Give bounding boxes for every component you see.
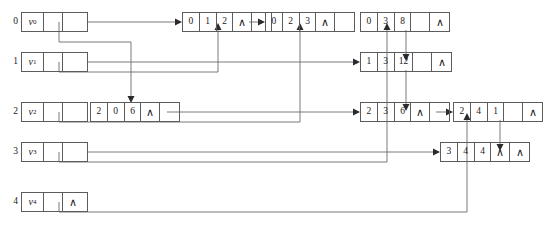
data-node-0-1-2-down-pointer: ∧ — [233, 13, 252, 31]
head-node-3: v3 — [21, 142, 88, 162]
head-node-2: v2 — [21, 102, 88, 122]
arrowhead-n1312-left — [353, 59, 360, 66]
head-node-0: v0 — [21, 12, 88, 32]
data-node-0-3-8-down-pointer — [411, 13, 430, 31]
data-node-0-2-3-row: 0 — [266, 13, 283, 31]
data-node-3-4-4-col: 4 — [458, 143, 475, 161]
head-node-3-row-pointer — [63, 143, 82, 161]
head-node-4-label: v4 — [22, 193, 44, 211]
data-node-3-4-4: 3 4 4 ∧ ∧ — [440, 142, 530, 162]
data-node-2-4-1-right-null: ∧ — [523, 103, 542, 121]
data-node-3-4-4-right-null: ∧ — [510, 143, 529, 161]
row-index-2: 2 — [8, 106, 18, 116]
data-node-1-3-12-value: 12 — [395, 53, 414, 71]
row-index-4: 4 — [8, 196, 18, 206]
row-index-3: 3 — [8, 146, 18, 156]
head-node-2-col-pointer — [44, 103, 63, 121]
head-node-3-col-pointer — [44, 143, 63, 161]
data-node-0-1-2-col: 1 — [200, 13, 217, 31]
wire-v3-col-to-n038 — [59, 30, 387, 162]
data-node-0-1-2: 0 1 2 ∧ — [182, 12, 272, 32]
data-node-2-3-6-value: 6 — [395, 103, 412, 121]
data-node-0-3-8-row: 0 — [361, 13, 378, 31]
arrowhead-n236-left — [353, 109, 360, 116]
head-node-2-row-pointer — [63, 103, 82, 121]
data-node-0-3-8-value: 8 — [395, 13, 412, 31]
head-node-0-row-pointer — [63, 13, 82, 31]
row-index-1: 1 — [8, 56, 18, 66]
data-node-0-3-8-right-null: ∧ — [430, 13, 449, 31]
data-node-0-2-3-down-pointer: ∧ — [316, 13, 335, 31]
data-node-2-3-6: 2 3 6 ∧ — [360, 102, 450, 122]
data-node-2-4-1-value: 1 — [488, 103, 505, 121]
data-node-1-3-12-right-null: ∧ — [432, 53, 451, 71]
arrowhead-n012-left — [175, 19, 182, 26]
head-node-3-label: v3 — [22, 143, 44, 161]
data-node-2-0-6-value: 6 — [125, 103, 142, 121]
data-node-2-4-1-col: 4 — [471, 103, 488, 121]
arrowhead-n344-left — [433, 149, 440, 156]
head-node-2-label: v2 — [22, 103, 44, 121]
data-node-2-4-1: 2 4 1 ∧ — [453, 102, 543, 122]
data-node-0-2-3: 0 2 3 ∧ — [265, 12, 355, 32]
data-node-2-3-6-row: 2 — [361, 103, 378, 121]
data-node-0-1-2-value: 2 — [217, 13, 234, 31]
data-node-2-3-6-col: 3 — [378, 103, 395, 121]
data-node-2-3-6-right-pointer — [430, 103, 449, 121]
data-node-0-2-3-right-pointer — [335, 13, 354, 31]
data-node-2-0-6-col: 0 — [108, 103, 125, 121]
data-node-3-4-4-row: 3 — [441, 143, 458, 161]
head-node-4-col-pointer — [44, 193, 63, 211]
data-node-1-3-12-col: 3 — [378, 53, 395, 71]
data-node-2-4-1-down-pointer — [504, 103, 523, 121]
data-node-0-2-3-col: 2 — [283, 13, 300, 31]
data-node-0-2-3-value: 3 — [300, 13, 317, 31]
data-node-2-3-6-down-null: ∧ — [411, 103, 430, 121]
head-node-4-null-marker: ∧ — [63, 193, 82, 211]
data-node-0-3-8-col: 3 — [378, 13, 395, 31]
data-node-1-3-12: 1 3 12 ∧ — [360, 52, 452, 72]
wire-v4-col-to-n241 — [59, 120, 467, 212]
head-node-0-label: v0 — [22, 13, 44, 31]
data-node-2-0-6-row: 2 — [91, 103, 108, 121]
data-node-0-3-8: 0 3 8 ∧ — [360, 12, 450, 32]
row-index-0: 0 — [8, 16, 18, 26]
head-node-1-label: v1 — [22, 53, 44, 71]
data-node-3-4-4-down-null: ∧ — [491, 143, 510, 161]
data-node-0-1-2-row: 0 — [183, 13, 200, 31]
head-node-1: v1 — [21, 52, 88, 72]
data-node-1-3-12-row: 1 — [361, 53, 378, 71]
head-node-1-row-pointer — [63, 53, 82, 71]
data-node-2-0-6-down-null: ∧ — [141, 103, 160, 121]
head-node-1-col-pointer — [44, 53, 63, 71]
data-node-2-0-6-right-pointer — [160, 103, 179, 121]
head-node-4: v4 ∧ — [21, 192, 88, 212]
head-node-0-col-pointer — [44, 13, 63, 31]
data-node-2-0-6: 2 0 6 ∧ — [90, 102, 180, 122]
data-node-1-3-12-down-pointer — [413, 53, 432, 71]
data-node-2-4-1-row: 2 — [454, 103, 471, 121]
data-node-3-4-4-value: 4 — [475, 143, 492, 161]
